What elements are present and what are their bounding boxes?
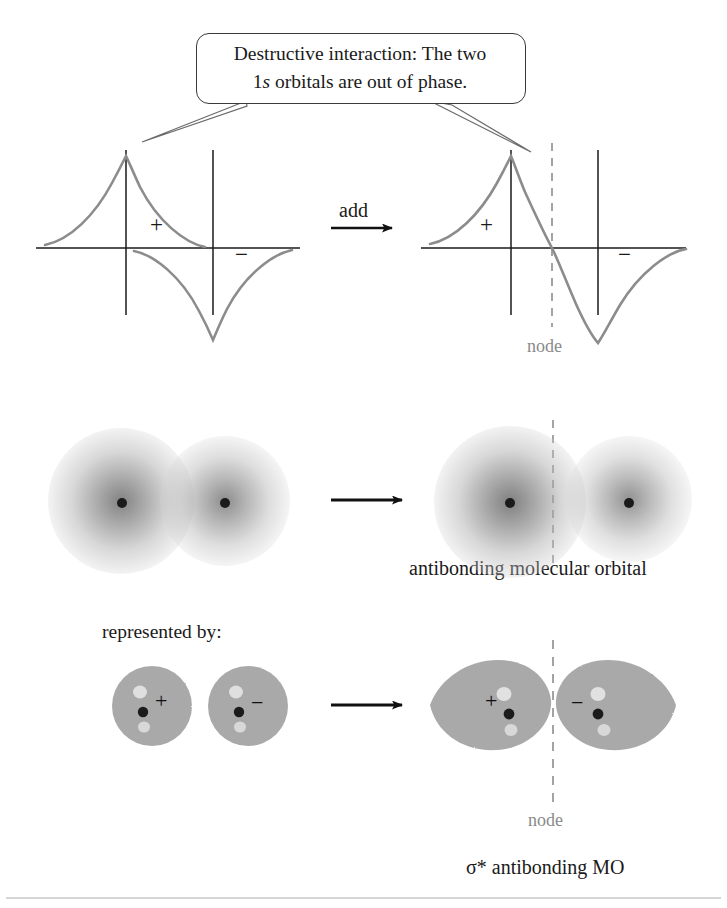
antibonding-right-sign: − <box>571 690 583 716</box>
representation-sphere-right <box>208 666 288 746</box>
representation-sphere-left <box>112 666 192 746</box>
right-plot-positive-sign: + <box>480 210 493 239</box>
callout-line-2-italic: s <box>263 71 271 92</box>
sphere-highlight-left-top <box>133 686 147 699</box>
represented-by-label: represented by: <box>102 620 222 645</box>
left-plot-positive-sign: + <box>150 210 163 239</box>
right-plot-curve-combined <box>430 156 686 343</box>
nucleus-dot-cloud-left-b <box>220 498 230 508</box>
callout-line-2-prefix: 1 <box>253 71 263 92</box>
orbital-diagram-figure: Destructive interaction: The two 1s orbi… <box>0 0 727 908</box>
left-wavefunction-plot <box>36 150 300 340</box>
callout-text: Destructive interaction: The two 1s orbi… <box>200 40 520 95</box>
callout-line-2-suffix: orbitals are out of phase. <box>270 71 467 92</box>
right-plot-negative-sign: − <box>618 240 631 269</box>
lobe-highlight-right-top <box>591 687 606 701</box>
add-operation-label: add <box>339 198 368 224</box>
representation-left-sign: + <box>155 688 167 714</box>
left-plot-curve-positive <box>45 156 205 247</box>
nucleus-dot-lobe-right <box>593 709 604 720</box>
antibonding-left-sign: + <box>485 688 497 714</box>
callout-pointer-right <box>430 101 531 152</box>
sigma-star-caption: σ* antibonding MO <box>466 855 625 881</box>
sphere-highlight-left-bottom <box>138 722 150 733</box>
right-wavefunction-plot <box>421 143 686 343</box>
lobe-highlight-left-top <box>497 687 512 701</box>
nucleus-dot-rep-right <box>234 707 244 717</box>
callout-line-1: Destructive interaction: The two <box>234 43 487 64</box>
representation-node-label: node <box>528 809 563 832</box>
nucleus-dot-cloud-right-b <box>624 498 634 508</box>
callout-pointer-left <box>142 101 247 142</box>
nucleus-dot-cloud-left-a <box>117 498 127 508</box>
left-plot-negative-sign: − <box>235 240 248 269</box>
representation-right-sign: − <box>251 690 263 716</box>
lobe-highlight-left-bottom <box>505 724 518 736</box>
nucleus-dot-cloud-right-a <box>505 498 515 508</box>
nucleus-dot-rep-left <box>138 707 148 717</box>
nucleus-dot-lobe-left <box>504 709 515 720</box>
lobe-highlight-right-bottom <box>598 724 611 736</box>
wavefunction-node-label: node <box>527 335 562 358</box>
sphere-highlight-right-bottom <box>234 722 246 733</box>
sphere-highlight-right-top <box>229 686 243 699</box>
